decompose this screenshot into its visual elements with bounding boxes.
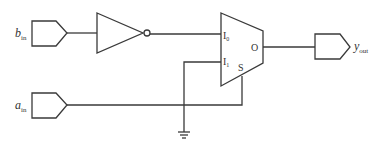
b-in-label: bin — [15, 26, 27, 42]
wire-i1-to-ground — [184, 62, 221, 132]
circuit-diagram: bin I0 I1 O S yout ain — [0, 0, 382, 149]
mux-pin-s: S — [238, 62, 244, 73]
a-in-port — [32, 93, 67, 118]
inverter-bubble — [144, 30, 150, 36]
ground-icon — [178, 132, 190, 138]
mux-pin-o: O — [251, 42, 258, 53]
y-out-port — [315, 34, 350, 59]
y-out-label: yout — [353, 39, 368, 55]
inverter-triangle — [97, 13, 143, 53]
wire-a-to-select — [67, 76, 242, 105]
a-in-label: ain — [15, 98, 27, 114]
b-in-port — [32, 21, 67, 46]
